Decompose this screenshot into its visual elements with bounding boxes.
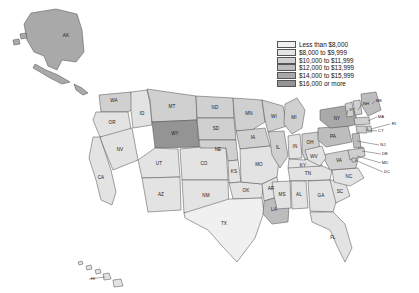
legend-item: $12,000 to $13,999 <box>277 64 373 71</box>
state-label-ok: OK <box>243 188 251 193</box>
legend-item: $16,000 or more <box>277 80 373 87</box>
state-label-az: AZ <box>158 192 164 197</box>
state-label-ky: KY <box>300 163 306 168</box>
state-label-wv: WV <box>310 154 318 159</box>
state-label-md: MD <box>382 160 389 165</box>
state-label-va: VA <box>336 158 343 163</box>
legend-item: Less than $8,000 <box>277 41 373 48</box>
state-hi[interactable] <box>103 273 111 280</box>
state-hi[interactable] <box>86 265 92 270</box>
state-label-ks: KS <box>231 169 237 174</box>
state-label-or: OR <box>108 120 116 125</box>
state-ct[interactable] <box>356 126 367 133</box>
state-label-ma: MA <box>378 114 385 119</box>
state-label-ga: GA <box>318 193 326 198</box>
state-hi[interactable] <box>78 261 83 265</box>
state-label-sc: SC <box>337 189 344 194</box>
state-label-nv: NV <box>117 147 124 152</box>
legend-swatch <box>277 72 296 79</box>
state-label-ny: NY <box>334 116 341 121</box>
legend-label: $16,000 or more <box>299 80 346 87</box>
legend-item: $14,000 to $15,999 <box>277 72 373 79</box>
state-label-ut: UT <box>156 161 162 166</box>
state-label-wy: WY <box>171 131 179 136</box>
state-label-la: LA <box>271 207 278 212</box>
legend-label: $10,000 to $11,999 <box>299 57 354 64</box>
legend-swatch <box>277 41 296 48</box>
state-label-nj: NJ <box>380 142 385 147</box>
state-label-ri: RI <box>392 121 396 126</box>
state-md[interactable] <box>348 148 365 160</box>
map-container: WAORCAIDNVMTWYUTCOAZNMNDSDNEKSOKTXMNIAMO… <box>0 0 419 293</box>
legend-label: $8,000 to $9,999 <box>299 49 347 56</box>
state-hi[interactable] <box>95 269 101 274</box>
state-label-ct: CT <box>378 128 384 133</box>
state-label-tn: TN <box>305 171 311 176</box>
state-label-nd: ND <box>212 105 219 110</box>
legend-swatch <box>277 57 296 64</box>
state-label-me: ME <box>376 98 383 103</box>
state-label-ca: CA <box>98 175 105 180</box>
state-nj[interactable] <box>352 133 361 148</box>
state-label-vt: VT <box>349 107 355 112</box>
state-ak[interactable] <box>74 84 88 95</box>
state-label-ne: NE <box>215 147 222 152</box>
state-label-mi: MI <box>291 115 296 120</box>
legend: Less than $8,000 $8,000 to $9,999 $10,00… <box>277 41 373 87</box>
legend-label: $14,000 to $15,999 <box>299 72 354 79</box>
legend-swatch <box>277 80 296 87</box>
state-label-in: IN <box>293 144 298 149</box>
state-label-tx: TX <box>221 221 227 226</box>
state-label-pa: PA <box>330 134 337 139</box>
state-label-oh: OH <box>306 140 313 145</box>
state-label-nm: NM <box>202 193 209 198</box>
legend-swatch <box>277 49 296 56</box>
state-label-nh: NH <box>363 101 369 106</box>
state-hi[interactable] <box>113 279 123 287</box>
state-label-mn: MN <box>245 111 252 116</box>
state-label-wa: WA <box>110 98 118 103</box>
state-label-de: DE <box>382 151 388 156</box>
state-label-ms: MS <box>278 192 285 197</box>
state-label-co: CO <box>200 161 207 166</box>
state-label-nc: NC <box>346 174 353 179</box>
state-label-mo: MO <box>255 162 263 167</box>
state-ak[interactable] <box>20 33 27 39</box>
state-label-il: IL <box>276 145 280 150</box>
state-label-ar: AR <box>268 186 275 191</box>
state-ak[interactable] <box>24 9 84 70</box>
state-ak[interactable] <box>13 39 20 45</box>
leader-line-md <box>357 156 381 163</box>
state-label-dc: DC <box>384 169 390 174</box>
state-label-ak: AK <box>63 33 70 38</box>
state-label-al: AL <box>296 192 302 197</box>
state-label-sd: SD <box>213 126 220 131</box>
legend-swatch <box>277 64 296 71</box>
legend-item: $10,000 to $11,999 <box>277 56 373 63</box>
legend-label: $12,000 to $13,999 <box>299 64 354 71</box>
state-label-wi: WI <box>271 114 277 119</box>
state-label-id: ID <box>140 111 145 116</box>
state-ma[interactable] <box>354 117 370 125</box>
legend-label: Less than $8,000 <box>299 41 348 48</box>
state-label-hi: HI <box>91 276 95 281</box>
state-label-fl: FL <box>330 235 336 240</box>
legend-item: $8,000 to $9,999 <box>277 49 373 56</box>
state-label-mt: MT <box>169 104 176 109</box>
